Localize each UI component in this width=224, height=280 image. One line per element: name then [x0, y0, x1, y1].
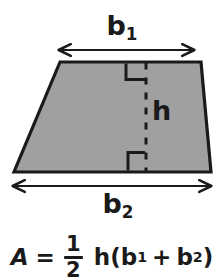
fraction-numerator: 1: [66, 234, 81, 256]
fraction-denominator: 2: [66, 259, 81, 280]
formula-base1: b: [121, 244, 137, 270]
label-h: h: [152, 97, 171, 124]
formula-fraction-one-half: 1 2: [64, 234, 83, 280]
trapezoid-area-figure: b1 h b2 A = 1 2 h ( b1 + b2 ): [0, 0, 224, 280]
formula-open-paren: (: [110, 244, 121, 270]
formula-close-paren: ): [203, 244, 214, 270]
trapezoid-shape: [14, 62, 211, 172]
formula-base1-subscript: 1: [137, 249, 147, 265]
label-b2-base: b: [103, 188, 122, 219]
label-b2-subscript: 2: [122, 202, 134, 222]
formula-area-symbol: A: [11, 244, 29, 270]
formula-height-var: h: [94, 244, 110, 270]
label-b1-subscript: 1: [126, 24, 138, 44]
label-b1-base: b: [107, 10, 126, 41]
formula-base2: b: [176, 244, 192, 270]
area-formula: A = 1 2 h ( b1 + b2 ): [0, 234, 224, 280]
formula-plus: +: [152, 244, 171, 270]
formula-equals: =: [36, 244, 55, 270]
formula-base2-subscript: 2: [193, 249, 203, 265]
label-b1: b1: [0, 12, 224, 43]
label-b2: b2: [0, 190, 224, 221]
